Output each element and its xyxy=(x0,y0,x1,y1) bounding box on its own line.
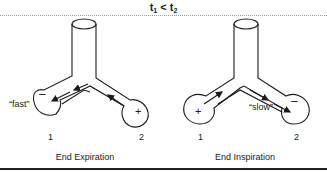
lung-units-diagram xyxy=(0,0,327,172)
caption-end-inspiration: End Inspiration xyxy=(200,152,290,163)
sign-minus-left-unit1: – xyxy=(39,89,46,100)
sign-plus-left-unit2: + xyxy=(135,106,141,117)
sign-plus-right-unit1: + xyxy=(195,106,201,117)
bottom-rule xyxy=(0,168,327,170)
unit-label-right-1: 1 xyxy=(198,132,203,143)
speed-label-slow: “slow” xyxy=(249,102,273,113)
unit-label-right-2: 2 xyxy=(294,132,299,143)
sign-minus-right-unit2: – xyxy=(291,96,298,107)
airway-right xyxy=(184,19,310,124)
unit-label-left-1: 1 xyxy=(48,132,53,143)
speed-label-fast: “fast” xyxy=(9,99,30,110)
airway-left xyxy=(33,19,148,127)
caption-end-expiration: End Expiration xyxy=(40,152,130,163)
unit-label-left-2: 2 xyxy=(139,132,144,143)
